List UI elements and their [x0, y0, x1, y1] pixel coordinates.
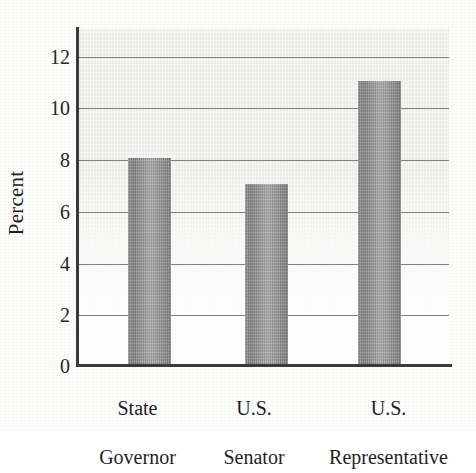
bar-state-governor [128, 158, 171, 365]
x-tick-label-us-representative: U.S. Representative [305, 372, 472, 473]
x-tick-label-line-1: State [79, 396, 196, 420]
x-axis-line [76, 364, 452, 367]
plot-area [78, 29, 449, 365]
bar-texture [245, 184, 288, 365]
y-tick-label-6: 6 [10, 202, 70, 222]
x-tick-label-line-1: U.S. [305, 396, 472, 420]
x-tick-label-line-2: Representative [305, 445, 472, 469]
y-tick-label-12: 12 [10, 47, 70, 67]
y-tick-label-4: 4 [10, 254, 70, 274]
x-tick-label-line-2: Senator [198, 445, 310, 469]
x-tick-label-line-2: Governor [79, 445, 196, 469]
y-tick-label-0: 0 [10, 356, 70, 376]
y-tick-label-2: 2 [10, 305, 70, 325]
y-tick-label-10: 10 [10, 98, 70, 118]
y-axis-line [76, 27, 79, 367]
bar-us-senator [245, 184, 288, 365]
bar-texture [358, 81, 401, 365]
x-tick-label-us-senator: U.S. Senator [198, 372, 310, 473]
y-axis-tick-labels: 12 10 8 6 4 2 0 [8, 0, 70, 430]
x-tick-label-state-governor: State Governor [79, 372, 196, 473]
gridline-12 [78, 57, 449, 58]
bar-us-representative [358, 81, 401, 365]
x-tick-label-line-1: U.S. [198, 396, 310, 420]
bar-texture [128, 158, 171, 365]
y-tick-label-8: 8 [10, 150, 70, 170]
